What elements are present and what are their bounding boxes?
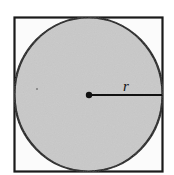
radius-label: r: [123, 78, 129, 94]
inscribed-circle-diagram: r: [0, 0, 174, 175]
center-point: [86, 92, 92, 98]
speck-mark: [36, 88, 38, 90]
